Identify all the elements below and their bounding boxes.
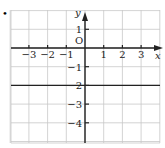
problem-bullet: • [2,8,8,19]
x-tick-label: 2 [119,49,125,60]
y-tick-label: −2 [67,80,82,91]
origin-label: O [75,35,83,46]
x-tick-label: −1 [59,49,74,60]
y-tick-label: −4 [67,118,82,129]
y-tick-label: 1 [76,24,82,35]
y-tick-label: −1 [67,62,82,73]
y-tick-label: −3 [67,99,82,110]
y-axis-arrow-icon [82,12,88,21]
axes [11,12,163,143]
x-tick-label: 3 [138,49,144,60]
x-tick-label: 1 [101,49,107,60]
tick-labels: −3−2−11231−1−2−3−4xyO [22,7,161,129]
y-axis-label: y [74,7,81,18]
coordinate-plane: • −3−2−11231−1−2−3−4xyO [0,0,165,148]
x-tick-label: −2 [40,49,55,60]
x-axis-label: x [155,50,161,61]
x-tick-label: −3 [22,49,37,60]
